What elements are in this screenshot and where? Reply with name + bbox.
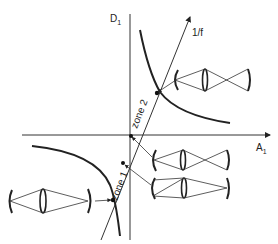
zone-1-lower-point xyxy=(111,198,115,202)
one-over-f-label: 1/f xyxy=(192,27,203,38)
zone-1-upper-point xyxy=(121,161,125,165)
x-axis-label: A1 xyxy=(256,142,267,155)
resonator-icon-middle xyxy=(153,150,229,171)
pointer-arrow-left xyxy=(95,200,111,201)
resonator-icon-upper xyxy=(175,69,250,91)
resonator-icon-left xyxy=(10,189,91,213)
resonator-icon-lower xyxy=(152,178,229,199)
pointer-arrow-upper xyxy=(158,80,176,92)
resonator-stability-diagram: D1 A1 1/f zone 2 zone 1 xyxy=(0,0,278,244)
y-axis-label: D1 xyxy=(110,13,121,26)
zone-1-label: zone 1 xyxy=(109,169,130,201)
